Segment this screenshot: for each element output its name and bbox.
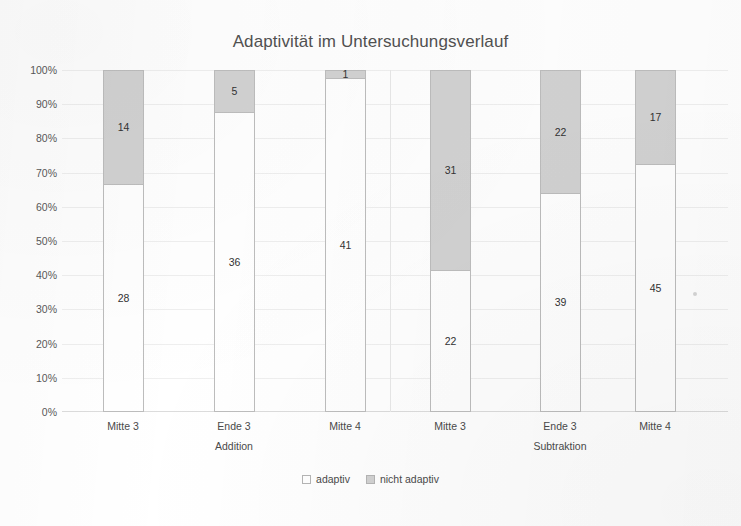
chart-legend: adaptiv nicht adaptiv [0,473,741,485]
bar-segment-nicht-adaptiv[interactable]: 31 [430,70,471,270]
x-group-label-addition: Addition [114,440,354,452]
y-tick-0: 0% [13,406,57,418]
bar-segment-nicht-adaptiv[interactable]: 17 [635,70,676,164]
bar-value-label: 22 [445,336,457,347]
x-label-subtraktion-mitte3: Mitte 3 [395,420,505,432]
gridline-10 [62,378,728,379]
bar-segment-adaptiv[interactable]: 41 [325,78,366,412]
x-group-label-subtraktion: Subtraktion [440,440,680,452]
bar-addition-mitte4[interactable]: 1 41 [325,70,366,412]
bar-subtraktion-ende3[interactable]: 22 39 [540,70,581,412]
bar-segment-adaptiv[interactable]: 22 [430,270,471,412]
chart-title: Adaptivität im Untersuchungsverlauf [0,32,741,52]
legend-swatch-icon [302,475,311,484]
plot-area: 14 28 5 36 1 41 31 [62,70,728,412]
bar-value-label: 45 [650,283,662,294]
bar-segment-adaptiv[interactable]: 45 [635,164,676,412]
legend-item-nicht-adaptiv[interactable]: nicht adaptiv [366,473,439,485]
gridline-60 [62,207,728,208]
bar-segment-nicht-adaptiv[interactable]: 22 [540,70,581,193]
gridline-40 [62,275,728,276]
gridline-80 [62,138,728,139]
bar-segment-adaptiv[interactable]: 39 [540,193,581,412]
bar-value-label: 28 [118,293,130,304]
bar-segment-adaptiv[interactable]: 36 [214,112,255,412]
bar-segment-nicht-adaptiv[interactable]: 14 [103,70,144,184]
bar-value-label: 22 [555,127,567,138]
bar-value-label: 39 [555,297,567,308]
bar-segment-adaptiv[interactable]: 28 [103,184,144,412]
x-label-addition-mitte3: Mitte 3 [68,420,178,432]
gridline-30 [62,309,728,310]
group-divider [390,70,391,412]
scan-artifact-speck [693,292,697,296]
bar-addition-mitte3[interactable]: 14 28 [103,70,144,412]
y-tick-40: 40% [13,269,57,281]
y-tick-100: 100% [13,64,57,76]
legend-label: adaptiv [316,473,350,485]
bar-segment-nicht-adaptiv[interactable]: 1 [325,70,366,78]
bar-value-label: 14 [118,122,130,133]
x-label-subtraktion-ende3: Ende 3 [505,420,615,432]
bar-subtraktion-mitte4[interactable]: 17 45 [635,70,676,412]
bar-subtraktion-mitte3[interactable]: 31 22 [430,70,471,412]
y-tick-10: 10% [13,372,57,384]
y-tick-60: 60% [13,201,57,213]
y-tick-20: 20% [13,338,57,350]
y-tick-90: 90% [13,98,57,110]
bar-segment-nicht-adaptiv[interactable]: 5 [214,70,255,112]
bar-value-label: 5 [232,86,238,97]
legend-item-adaptiv[interactable]: adaptiv [302,473,350,485]
gridline-90 [62,104,728,105]
bar-value-label: 31 [445,165,457,176]
gridline-70 [62,173,728,174]
bar-value-label: 36 [229,257,241,268]
y-tick-70: 70% [13,167,57,179]
bar-addition-ende3[interactable]: 5 36 [214,70,255,412]
y-tick-80: 80% [13,132,57,144]
legend-label: nicht adaptiv [380,473,439,485]
bar-value-label: 41 [340,240,352,251]
x-label-addition-mitte4: Mitte 4 [290,420,400,432]
y-tick-50: 50% [13,235,57,247]
y-tick-30: 30% [13,303,57,315]
legend-swatch-icon [366,475,375,484]
x-label-addition-ende3: Ende 3 [179,420,289,432]
x-label-subtraktion-mitte4: Mitte 4 [600,420,710,432]
gridline-50 [62,241,728,242]
gridline-100 [62,70,728,71]
gridline-20 [62,344,728,345]
bar-value-label: 17 [650,112,662,123]
gridline-baseline [62,411,728,412]
